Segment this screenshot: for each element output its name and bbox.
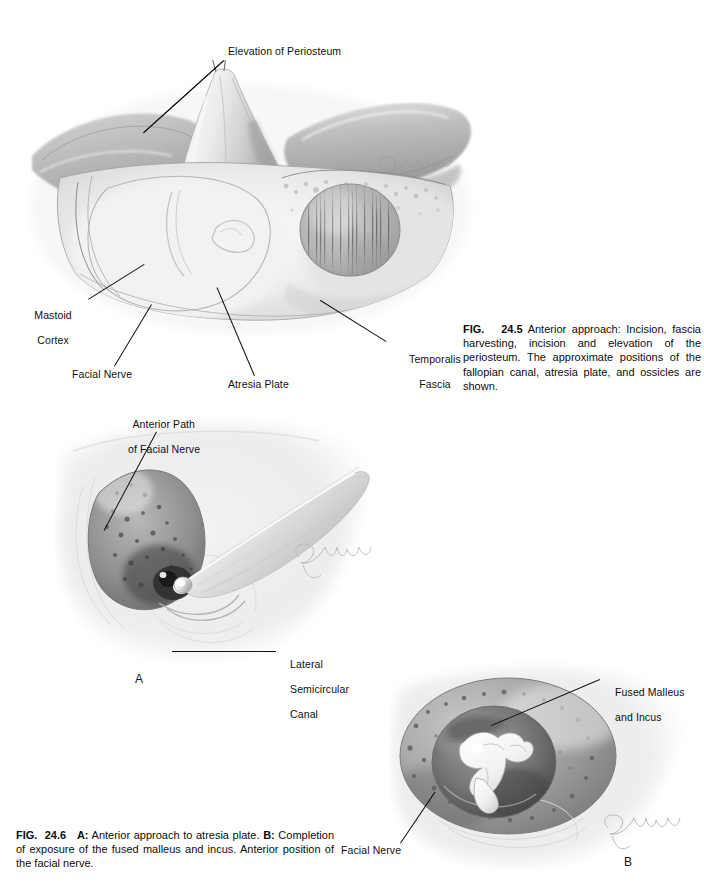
figure-24-5-caption-number-prefix: FIG.: [463, 323, 484, 335]
figure-24-5-caption: FIG. 24.5 Anterior approach: Incision, f…: [463, 322, 701, 393]
illustration-page: Elevation of Periosteum Mastoid Cortex F…: [0, 0, 704, 884]
panel-letter-b: B: [624, 855, 632, 869]
label-mastoid-cortex: Mastoid Cortex: [8, 296, 86, 359]
figure-24-5-artwork: [20, 60, 480, 335]
panel-letter-a: A: [135, 672, 143, 686]
figure-24-6-caption-number: 24.6: [45, 829, 66, 841]
figure-24-6-panel-a-artwork: [55, 415, 395, 680]
label-lsc-line3: Canal: [290, 708, 318, 720]
figure-24-6-caption-part-a-text: Anterior approach to atresia plate.: [92, 829, 260, 841]
label-fused-malleus-line2: and Incus: [615, 711, 661, 723]
figure-24-5-caption-number: 24.5: [501, 323, 522, 335]
label-facial-nerve: Facial Nerve: [72, 368, 132, 381]
label-anterior-path-line1: Anterior Path: [132, 418, 195, 430]
label-lateral-semicircular-canal: Lateral Semicircular Canal: [278, 645, 360, 733]
label-temporalis-fascia-line1: Temporalis: [409, 353, 461, 365]
figure-24-6-caption-part-a-label: A:: [77, 829, 89, 841]
label-fused-malleus-and-incus: Fused Malleus and Incus: [603, 673, 699, 736]
label-fused-malleus-line1: Fused Malleus: [615, 686, 685, 698]
label-facial-nerve-b: Facial Nerve: [341, 844, 401, 857]
label-mastoid-cortex-line1: Mastoid: [34, 309, 71, 321]
label-lsc-line2: Semicircular: [290, 683, 349, 695]
leader-lateral-semicircular-canal: [172, 651, 276, 652]
label-mastoid-cortex-line2: Cortex: [37, 334, 69, 346]
label-temporalis-fascia: Temporalis Fascia: [386, 340, 472, 403]
figure-24-6-caption-part-b-label: B:: [263, 829, 275, 841]
label-anterior-path-of-facial-nerve: Anterior Path of Facial Nerve: [108, 405, 208, 468]
label-elevation-of-periosteum: Elevation of Periosteum: [228, 45, 341, 58]
label-atresia-plate: Atresia Plate: [228, 378, 289, 391]
label-anterior-path-line2: of Facial Nerve: [128, 443, 200, 455]
figure-24-6-caption: FIG. 24.6 A: Anterior approach to atresi…: [16, 828, 334, 871]
figure-24-6-caption-number-prefix: FIG.: [16, 829, 37, 841]
label-lsc-line1: Lateral: [290, 658, 323, 670]
label-temporalis-fascia-line2: Fascia: [419, 378, 451, 390]
